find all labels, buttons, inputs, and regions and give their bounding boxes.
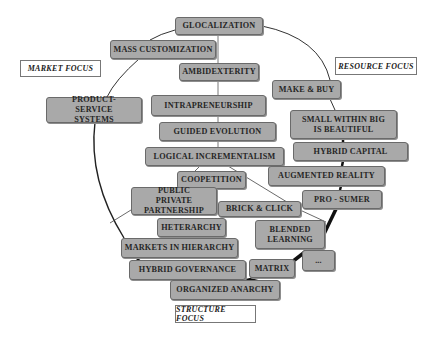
structure-focus-label: STRUCTURE FOCUS [175, 305, 256, 323]
node-matrix: MATRIX [249, 259, 295, 278]
node-hybrid-capital: HYBRID CAPITAL [293, 142, 408, 161]
node-intrapreneurship: INTRAPRENEURSHIP [151, 95, 266, 116]
node-ellipsis: ... [302, 250, 335, 271]
node-public-private-partnership: PUBLIC PRIVATE PARTNERSHIP [131, 187, 217, 215]
node-blended-learning: BLENDED LEARNING [255, 220, 325, 249]
node-pro-sumer: PRO - SUMER [302, 190, 382, 209]
node-organized-anarchy: ORGANIZED ANARCHY [170, 280, 280, 300]
node-hybrid-governance: HYBRID GOVERNANCE [129, 260, 246, 280]
node-make-and-buy: MAKE & BUY [272, 80, 341, 99]
node-augmented-reality: AUGMENTED REALITY [268, 166, 385, 186]
resource-focus-label: RESOURCE FOCUS [335, 57, 417, 75]
node-brick-and-click: BRICK & CLICK [218, 201, 301, 217]
node-heterarchy: HETERARCHY [157, 218, 226, 237]
node-small-within-big: SMALL WITHIN BIG IS BEAUTIFUL [290, 110, 397, 139]
node-mass-customization: MASS CUSTOMIZATION [110, 40, 216, 59]
node-markets-in-hierarchy: MARKETS IN HIERARCHY [121, 238, 238, 258]
node-guided-evolution: GUIDED EVOLUTION [159, 122, 276, 141]
node-ambidexterity: AMBIDEXTERITY [179, 63, 259, 81]
node-product-service-systems: PRODUCT-SERVICE SYSTEMS [46, 97, 142, 123]
node-logical-incrementalism: LOGICAL INCREMENTALISM [145, 147, 284, 166]
node-glocalization: GLOCALIZATION [175, 17, 263, 35]
market-focus-label: MARKET FOCUS [20, 60, 101, 77]
